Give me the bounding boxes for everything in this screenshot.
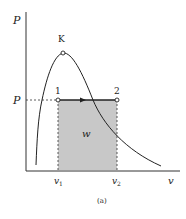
caption: (a) [97, 197, 107, 205]
v2-label: v2 [112, 176, 121, 187]
state-2-label: 2 [114, 86, 120, 96]
pv-diagram: P K P 1 2 w v1 v2 v (a) [0, 0, 186, 219]
y-axis-label: P [12, 14, 21, 27]
v1-label: v1 [54, 176, 63, 187]
critical-point-label: K [58, 34, 65, 44]
state-1-marker [56, 98, 60, 102]
state-1-label: 1 [55, 86, 61, 96]
pressure-label: P [12, 94, 21, 107]
x-axis-label: v [168, 175, 174, 186]
critical-point-marker [61, 51, 65, 55]
state-2-marker [115, 98, 119, 102]
work-label: w [82, 128, 91, 139]
